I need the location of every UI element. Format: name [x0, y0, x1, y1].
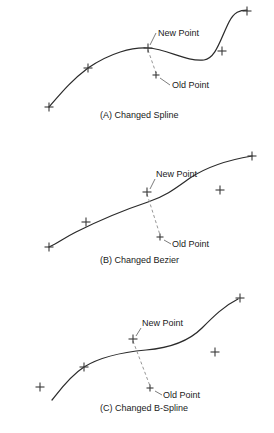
old-point-label: Old Point [163, 390, 201, 400]
control-point-marker [211, 348, 220, 357]
curve-path [52, 299, 238, 400]
panel-caption: (A) Changed Spline [100, 110, 179, 120]
old-point-leader-line [160, 78, 170, 85]
control-point-marker [80, 363, 89, 372]
panel-a: New PointOld Point(A) Changed Spline [45, 7, 252, 121]
new-point-label: New Point [156, 169, 198, 179]
old-point-leader-line [155, 391, 162, 395]
new-point-label: New Point [158, 28, 200, 38]
panel-b: New PointOld Point(B) Changed Bezier [45, 152, 257, 266]
control-point-marker [216, 186, 225, 195]
displacement-dashed-line [133, 341, 150, 386]
old-point-leader-line [164, 240, 171, 244]
control-point-marker [36, 383, 45, 392]
curve-path [49, 156, 252, 247]
figure-canvas: New PointOld Point(A) Changed SplineNew … [0, 0, 274, 433]
panel-caption: (B) Changed Bezier [100, 255, 179, 265]
spline-comparison-figure: New PointOld Point(A) Changed SplineNew … [0, 0, 274, 433]
control-point-marker [243, 7, 252, 16]
new-point-leader-line [150, 33, 156, 45]
old-point-label: Old Point [172, 239, 210, 249]
control-point-marker [144, 44, 153, 53]
displacement-dashed-line [148, 50, 156, 73]
control-point-marker [248, 152, 257, 161]
panel-caption: (C) Changed B-Spline [100, 403, 188, 413]
control-point-marker [45, 243, 54, 252]
new-point-leader-line [136, 328, 141, 336]
new-point-label: New Point [142, 318, 184, 328]
old-point-label: Old Point [172, 80, 210, 90]
panel-c: New PointOld Point(C) Changed B-Spline [36, 294, 245, 414]
control-point-marker [236, 294, 245, 303]
new-point-leader-line [150, 179, 155, 189]
control-point-marker [218, 47, 227, 56]
control-point-marker [157, 234, 164, 241]
control-point-marker [153, 72, 160, 79]
curve-path [49, 10, 247, 107]
control-point-marker [147, 385, 154, 392]
